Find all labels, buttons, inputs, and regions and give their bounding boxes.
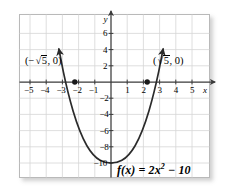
parabola-graph-figure: −5 −4 −3 −2 −1 1 2 3 4 5 6 4 2 −2 −4 −6 … — [0, 0, 225, 188]
right-intercept-label: (√5, 0) — [153, 55, 184, 67]
y-tick-label--8: −8 — [99, 143, 108, 152]
x-tick-label--2: −2 — [73, 86, 82, 95]
grid-lines — [20, 15, 210, 178]
radical-icon-2: √5 — [157, 55, 170, 66]
y-tick-label--2: −2 — [99, 94, 108, 103]
y-tick-label-2: 2 — [103, 62, 107, 71]
x-axis-label: x — [203, 86, 207, 95]
left-intercept-label: (−√5, 0) — [25, 55, 61, 67]
right-intercept-label-prefix: ( — [153, 55, 157, 66]
y-axis-label: y — [104, 15, 108, 24]
y-tick-label-4: 4 — [103, 46, 107, 55]
right-intercept-label-suffix: , 0) — [170, 55, 184, 66]
x-tick-label-2: 2 — [141, 86, 145, 95]
x-tick-label-1: 1 — [125, 86, 129, 95]
x-tick-label--5: −5 — [24, 86, 33, 95]
x-tick-label--1: −1 — [89, 86, 98, 95]
x-tick-label-4: 4 — [174, 86, 178, 95]
point-left-x-intercept — [72, 79, 77, 84]
y-tick-label--10: −10 — [94, 159, 107, 168]
y-tick-label--4: −4 — [99, 110, 108, 119]
equation-label: f(x) = 2x2 − 10 — [117, 164, 191, 176]
radical-icon: √5 — [34, 55, 47, 66]
y-tick-label--6: −6 — [99, 127, 108, 136]
left-intercept-label-prefix: (− — [25, 55, 34, 66]
equation-base: f(x) = 2x — [117, 163, 161, 177]
left-intercept-radicand: 5 — [41, 55, 47, 67]
y-tick-label-6: 6 — [103, 29, 107, 38]
right-intercept-radicand: 5 — [163, 55, 169, 67]
x-tick-label--3: −3 — [56, 86, 65, 95]
x-tick-label-3: 3 — [158, 86, 162, 95]
x-tick-label-5: 5 — [190, 86, 194, 95]
equation-tail: − 10 — [165, 163, 191, 177]
x-tick-label--4: −4 — [40, 86, 49, 95]
point-right-x-intercept — [145, 79, 150, 84]
left-intercept-label-suffix: , 0) — [47, 55, 61, 66]
